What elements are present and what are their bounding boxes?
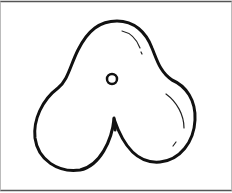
figure-frame: [0, 0, 232, 193]
center-circle: [107, 74, 117, 84]
three-lobed-shape-drawing: [0, 0, 232, 193]
right-highlight-dash: [173, 142, 176, 146]
crease-line: [114, 118, 115, 130]
right-highlight-arc: [166, 94, 184, 128]
top-highlight-dot: [141, 52, 142, 54]
top-highlight-arc: [122, 31, 140, 48]
blob-outline: [35, 21, 195, 170]
